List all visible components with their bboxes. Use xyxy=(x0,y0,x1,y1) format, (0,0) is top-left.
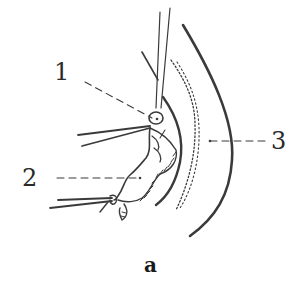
leader-line-1 xyxy=(85,82,152,118)
filament-upper-3 xyxy=(142,52,158,80)
filament-upper-1 xyxy=(156,12,160,108)
figure-caption: a xyxy=(144,255,157,275)
label-1: 1 xyxy=(54,60,69,84)
label-2: 2 xyxy=(22,166,37,190)
antenna-lower-1 xyxy=(58,198,112,200)
diagram-canvas: 1 2 3 a xyxy=(0,0,306,289)
dotted-layer-outer xyxy=(171,60,195,210)
outer-membrane-arc xyxy=(183,25,232,236)
antenna-lower-2 xyxy=(50,201,112,208)
specimen-illustration xyxy=(0,0,306,289)
body-outline xyxy=(114,128,150,200)
filament-upper-2 xyxy=(161,8,170,108)
label-3: 3 xyxy=(271,129,286,153)
